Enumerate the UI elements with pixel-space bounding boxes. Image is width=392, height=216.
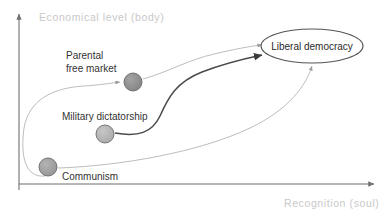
node-parental-free-market[interactable]: Parental free market [66, 50, 142, 91]
parental-free-market-label-line1: Parental [66, 50, 103, 61]
military-dictatorship-label: Military dictatorship [62, 111, 148, 122]
communism-circle[interactable] [39, 158, 57, 176]
edge-military-dictatorship-to-liberal-democracy [115, 55, 262, 134]
military-dictatorship-circle[interactable] [96, 125, 114, 143]
diagram-canvas: Economical level (body) Recognition (sou… [0, 0, 392, 216]
node-communism[interactable]: Communism [39, 158, 118, 182]
parental-free-market-label-line2: free market [66, 63, 117, 74]
node-liberal-democracy[interactable]: Liberal democracy [261, 29, 363, 63]
liberal-democracy-label: Liberal democracy [271, 41, 353, 52]
diagram-svg: Economical level (body) Recognition (sou… [0, 0, 392, 216]
y-axis-label: Economical level (body) [39, 11, 164, 23]
x-axis-label: Recognition (soul) [284, 197, 379, 209]
node-military-dictatorship[interactable]: Military dictatorship [62, 111, 148, 143]
parental-free-market-circle[interactable] [124, 73, 142, 91]
communism-label: Communism [62, 171, 118, 182]
edge-parental-free-market-to-liberal-democracy [143, 45, 262, 79]
